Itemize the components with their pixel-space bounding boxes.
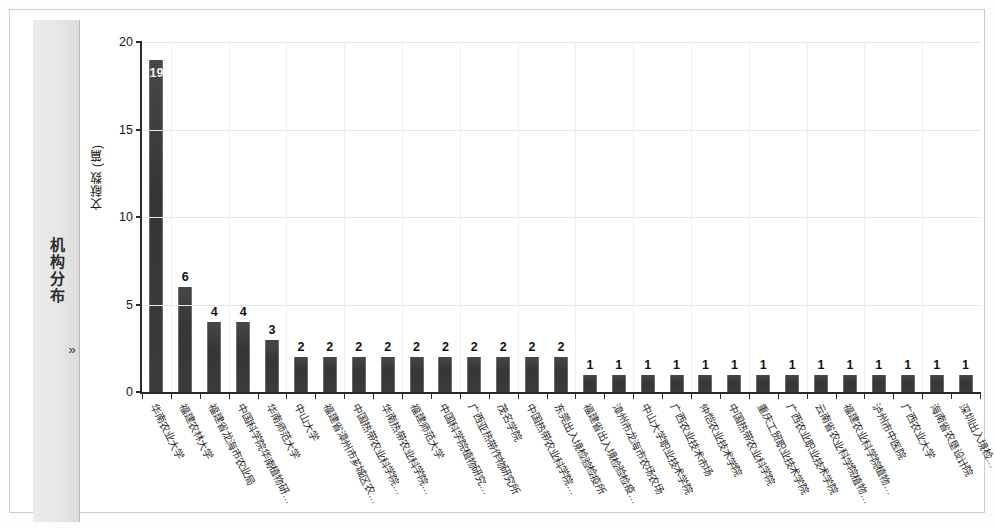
x-axis-tick-mark bbox=[633, 392, 634, 399]
bar[interactable] bbox=[323, 357, 336, 392]
x-axis-tick-mark bbox=[171, 392, 172, 399]
gridline-vertical bbox=[229, 42, 230, 392]
gridline-vertical bbox=[171, 42, 172, 392]
bar[interactable] bbox=[468, 357, 481, 392]
bar[interactable] bbox=[815, 375, 828, 393]
chevron-double-right-icon[interactable]: » bbox=[33, 342, 80, 357]
bar[interactable] bbox=[208, 322, 221, 392]
gridline-horizontal bbox=[142, 42, 980, 43]
gridline-horizontal bbox=[142, 305, 980, 306]
y-axis-tick-mark bbox=[136, 304, 142, 306]
bar[interactable] bbox=[728, 375, 741, 393]
x-axis-tick-label: 福建省漳州市芗城区农… bbox=[322, 402, 382, 505]
bar[interactable] bbox=[381, 357, 394, 392]
bar[interactable] bbox=[352, 357, 365, 392]
bar-value-label: 2 bbox=[413, 340, 420, 354]
bar[interactable] bbox=[410, 357, 423, 392]
x-axis-tick-mark bbox=[402, 392, 403, 399]
bar-value-label: 2 bbox=[500, 340, 507, 354]
bar-value-label: 2 bbox=[471, 340, 478, 354]
x-axis-tick-label: 茂名学院 bbox=[495, 402, 523, 442]
x-axis-tick-mark bbox=[691, 392, 692, 399]
x-axis-tick-label: 云南省农业科学院植物… bbox=[813, 402, 873, 505]
bar-value-label: 19 bbox=[149, 66, 163, 80]
bar[interactable] bbox=[179, 287, 192, 392]
bar[interactable] bbox=[843, 375, 856, 393]
plot-area: 196443222222222211111111111111 05101520 bbox=[140, 42, 980, 394]
x-axis-tick-mark bbox=[836, 392, 837, 399]
bar-value-label: 1 bbox=[875, 358, 882, 372]
bar[interactable] bbox=[294, 357, 307, 392]
x-axis-tick-label: 中国科学院华南植物研… bbox=[235, 402, 295, 505]
sidebar-item-label: 机构分布 bbox=[49, 237, 64, 305]
bar[interactable] bbox=[583, 375, 596, 393]
gridline-vertical bbox=[807, 42, 808, 392]
bar[interactable] bbox=[757, 375, 770, 393]
bar[interactable] bbox=[237, 322, 250, 392]
x-axis-tick-mark bbox=[951, 392, 952, 399]
gridline-vertical bbox=[922, 42, 923, 392]
bar[interactable] bbox=[497, 357, 510, 392]
sidebar-label-wrapper: 机构分布 bbox=[33, 20, 80, 522]
gridline-vertical bbox=[344, 42, 345, 392]
bar-value-label: 1 bbox=[962, 358, 969, 372]
x-axis-tick-label: 中山大学 bbox=[293, 402, 321, 442]
x-axis-tick-mark bbox=[489, 392, 490, 399]
bar[interactable] bbox=[901, 375, 914, 393]
bar[interactable] bbox=[612, 375, 625, 393]
gridline-vertical bbox=[633, 42, 634, 392]
bar-value-label: 1 bbox=[731, 358, 738, 372]
bar[interactable] bbox=[641, 375, 654, 393]
y-axis-tick-mark bbox=[136, 216, 142, 218]
x-axis-tick-mark bbox=[460, 392, 461, 399]
bar-value-label: 1 bbox=[702, 358, 709, 372]
bar-value-label: 2 bbox=[355, 340, 362, 354]
y-axis-title-text: 文献数 (篇) bbox=[88, 144, 105, 210]
x-axis-tick-label: 中国热带农业科学院… bbox=[524, 402, 579, 496]
y-axis-tick-mark bbox=[136, 129, 142, 131]
bar-value-label: 1 bbox=[818, 358, 825, 372]
x-axis-tick-mark bbox=[431, 392, 432, 399]
x-axis-labels: 华南农业大学福建农林大学福建省龙海市农业局中国科学院华南植物研…华南师范大学中山… bbox=[140, 402, 978, 522]
bar[interactable] bbox=[959, 375, 972, 393]
bar-value-label: 1 bbox=[586, 358, 593, 372]
x-axis-tick-mark bbox=[518, 392, 519, 399]
x-axis-tick-mark bbox=[547, 392, 548, 399]
x-axis-tick-mark bbox=[142, 392, 143, 399]
bar-value-label: 2 bbox=[558, 340, 565, 354]
bar-value-label: 1 bbox=[846, 358, 853, 372]
bar[interactable] bbox=[670, 375, 683, 393]
bar-value-label: 2 bbox=[384, 340, 391, 354]
bar-chart: 文献数 (篇) 196443222222222211111111111111 0… bbox=[82, 24, 992, 516]
bar[interactable] bbox=[699, 375, 712, 393]
bar-value-label: 2 bbox=[326, 340, 333, 354]
y-axis-tick-mark bbox=[136, 41, 142, 43]
x-axis-tick-mark bbox=[200, 392, 201, 399]
x-axis-tick-mark bbox=[893, 392, 894, 399]
sidebar-expand-label: » bbox=[68, 342, 75, 357]
bar-value-label: 1 bbox=[644, 358, 651, 372]
x-axis-tick-mark bbox=[980, 392, 981, 399]
x-axis-tick-mark bbox=[344, 392, 345, 399]
x-axis-tick-mark bbox=[229, 392, 230, 399]
gridline-vertical bbox=[864, 42, 865, 392]
bar[interactable] bbox=[526, 357, 539, 392]
gridline-vertical bbox=[286, 42, 287, 392]
x-axis-tick-mark bbox=[778, 392, 779, 399]
x-axis-tick-mark bbox=[662, 392, 663, 399]
bar[interactable] bbox=[439, 357, 452, 392]
bar-value-label: 1 bbox=[615, 358, 622, 372]
x-axis-tick-mark bbox=[922, 392, 923, 399]
bar[interactable] bbox=[266, 340, 279, 393]
sidebar-institution-distribution[interactable]: 机构分布 » bbox=[33, 20, 80, 522]
bar[interactable] bbox=[872, 375, 885, 393]
bar[interactable] bbox=[786, 375, 799, 393]
bar[interactable] bbox=[930, 375, 943, 393]
gridline-vertical bbox=[575, 42, 576, 392]
bar-value-label: 6 bbox=[182, 270, 189, 284]
bar[interactable] bbox=[554, 357, 567, 392]
x-axis-tick-mark bbox=[604, 392, 605, 399]
bar[interactable] bbox=[150, 60, 163, 393]
gridline-horizontal bbox=[142, 130, 980, 131]
x-axis-tick-mark bbox=[258, 392, 259, 399]
